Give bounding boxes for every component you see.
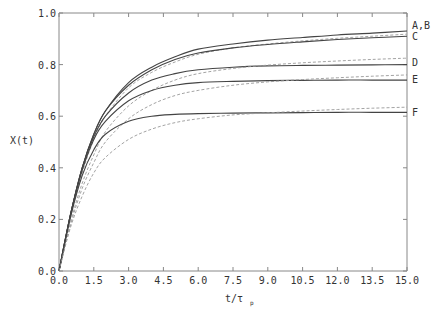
x-tick-label: 15.0 [395, 275, 419, 286]
x-axis-title: t/τ p [225, 293, 254, 307]
series-label-d: D [412, 57, 418, 68]
series-line [59, 75, 407, 271]
series-line [59, 36, 407, 271]
y-axis-title: X(t) [10, 135, 34, 146]
y-tick-label: 0.4 [38, 163, 56, 174]
x-tick-label: 4.5 [154, 275, 172, 286]
y-tick-label: 0.6 [38, 111, 56, 122]
x-tick-label: 7.5 [224, 275, 242, 286]
chart: 0.01.53.04.56.07.59.010.512.013.515.00.0… [0, 0, 437, 313]
y-tick-label: 0.0 [38, 266, 56, 277]
svg-text:p: p [250, 299, 254, 307]
plot-frame [59, 13, 407, 271]
x-tick-label: 10.5 [291, 275, 315, 286]
series-line [59, 107, 407, 271]
svg-text:t/τ: t/τ [225, 293, 243, 304]
data-series [59, 31, 407, 271]
x-tick-label: 9.0 [259, 275, 277, 286]
series-label-f: F [412, 107, 418, 118]
series-label-e: E [412, 74, 418, 85]
series-line [59, 112, 407, 271]
series-line [59, 65, 407, 271]
y-tick-label: 1.0 [38, 8, 56, 19]
x-tick-label: 3.0 [120, 275, 138, 286]
x-tick-label: 1.5 [85, 275, 103, 286]
y-tick-label: 0.8 [38, 60, 56, 71]
x-tick-label: 6.0 [189, 275, 207, 286]
x-tick-label: 13.5 [360, 275, 384, 286]
x-tick-label: 12.0 [325, 275, 349, 286]
series-line [59, 58, 407, 271]
series-label-c: C [412, 31, 418, 42]
y-tick-label: 0.2 [38, 214, 56, 225]
series-label-ab: A,B [412, 20, 430, 31]
